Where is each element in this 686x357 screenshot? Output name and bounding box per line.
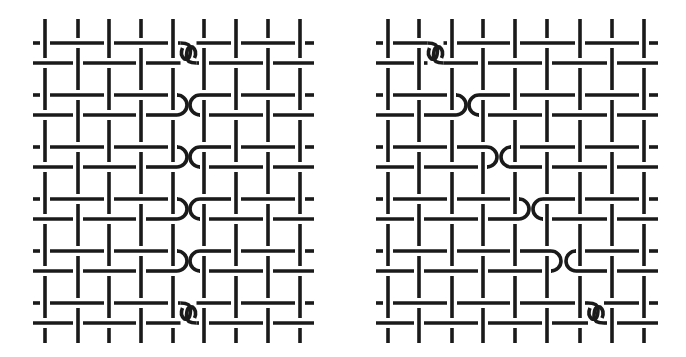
turn-arc-right: [190, 147, 200, 167]
turn-arc-left: [177, 147, 187, 167]
turn-arc-left: [177, 251, 187, 271]
turn-arc-right: [501, 147, 511, 167]
turn-arc-left: [519, 199, 529, 219]
turn-arc-left: [551, 251, 561, 271]
turn-arc-right: [533, 199, 543, 219]
weave-diagram-canvas: [0, 0, 686, 357]
left-weave-panel: [33, 19, 314, 343]
right-weave-panel: [376, 19, 658, 343]
turn-arc-right: [190, 251, 200, 271]
turn-arc-left: [487, 147, 497, 167]
turn-arc-left: [177, 95, 187, 115]
turn-arc-left: [456, 95, 466, 115]
turn-arc-left: [177, 199, 187, 219]
turn-arc-right: [190, 95, 200, 115]
turn-arc-right: [190, 199, 200, 219]
turn-arc-right: [566, 251, 576, 271]
turn-arc-right: [469, 95, 479, 115]
